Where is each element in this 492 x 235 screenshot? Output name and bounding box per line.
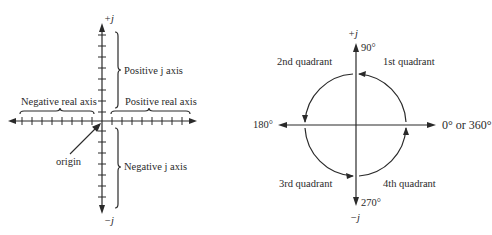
arc-quadrant-2 (305, 74, 353, 122)
arc-quadrant-1 (359, 74, 406, 122)
arc-arrow-q3-icon (346, 173, 354, 179)
positive-real-axis-label: Positive real axis (125, 97, 197, 108)
negative-j-axis-label: Negative j axis (124, 162, 187, 173)
left-minus-j-label: −j (104, 216, 114, 227)
arc-quadrant-3 (305, 128, 353, 176)
arc-quadrant-4 (359, 128, 406, 176)
right-plus-j-label: +j (348, 29, 358, 40)
angle-180-label: 180° (253, 120, 273, 131)
arrow-90-icon (353, 43, 359, 52)
origin-pointer-line (70, 127, 97, 154)
arrow-180-icon (278, 122, 287, 128)
negative-real-axis-label: Negative real axis (21, 97, 97, 108)
arrow-down-icon (99, 205, 105, 214)
arrow-0-icon (427, 122, 436, 128)
left-plus-j-label: +j (104, 14, 114, 25)
positive-j-brace (115, 32, 121, 108)
arrow-left-icon (8, 118, 16, 124)
origin-label: origin (56, 157, 81, 168)
right-minus-j-label: −j (350, 213, 360, 224)
negative-real-brace (20, 108, 94, 114)
figure-canvas: +j Positive j axis Negative real axis Po… (0, 0, 492, 235)
positive-real-brace (111, 108, 190, 114)
negative-j-brace (115, 128, 121, 208)
quadrant-1-label: 1st quadrant (383, 57, 435, 68)
quadrant-4-label: 4th quadrant (383, 179, 436, 190)
arc-arrow-q4-icon (403, 127, 409, 135)
quadrant-3-label: 3rd quadrant (279, 179, 332, 190)
arrow-270-icon (353, 197, 359, 206)
arc-arrow-q2-icon (302, 115, 308, 123)
angle-90-label: 90° (361, 43, 376, 54)
positive-j-axis-label: Positive j axis (124, 66, 183, 77)
angle-0-label: 0° or 360° (442, 119, 492, 131)
quadrant-2-label: 2nd quadrant (277, 57, 332, 68)
arrow-right-icon (189, 118, 197, 124)
angle-270-label: 270° (361, 198, 381, 209)
left-axes-graphic (0, 0, 492, 235)
arc-arrow-q1-icon (358, 71, 366, 77)
